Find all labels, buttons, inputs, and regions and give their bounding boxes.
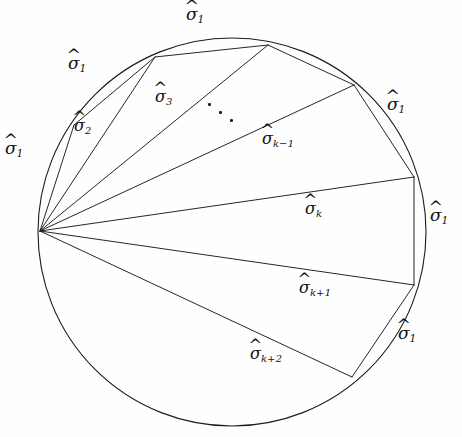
- chord-label-sigma-k+1-subscript: k+1: [310, 287, 331, 298]
- arc-label-left-base: σ^: [5, 140, 17, 157]
- chord-label-sigma-k+2: σ^k+2: [250, 346, 282, 364]
- chord-label-sigma-3: σ^3: [155, 89, 172, 107]
- arc-label-right-base: σ^: [430, 207, 442, 224]
- arc-label-upper-right: σ^1: [387, 96, 406, 115]
- chord-label-sigma-k-1-subscript: k−1: [273, 138, 294, 149]
- edge-v3-v4: [268, 45, 354, 85]
- arc-label-right: σ^1: [430, 207, 449, 226]
- ellipsis-dot-2: [219, 111, 222, 114]
- chord-label-sigma-k-base: σ^: [305, 201, 316, 217]
- arc-label-upper-right-base: σ^: [387, 96, 399, 113]
- chord-label-sigma-k-hat: ^: [304, 193, 318, 209]
- chord-label-sigma-k+1-base: σ^: [299, 280, 310, 296]
- chord-label-sigma-k+2-hat: ^: [249, 338, 263, 354]
- chord-label-sigma-k-1-hat: ^: [261, 123, 275, 139]
- figure-canvas: σ^1σ^1σ^1σ^1σ^1σ^1σ^2σ^3σ^k−1σ^kσ^k+1σ^k…: [0, 0, 462, 437]
- chord-lines-group: [40, 45, 414, 377]
- arc-label-top: σ^1: [186, 6, 205, 25]
- arc-label-upper-left-base: σ^: [68, 55, 80, 72]
- chord-label-sigma-k-1: σ^k−1: [262, 131, 294, 149]
- chord-label-sigma-k+1-hat: ^: [298, 272, 312, 288]
- circle-boundary-group: [38, 38, 426, 426]
- arc-label-top-base: σ^: [186, 6, 198, 23]
- chord-label-sigma-3-hat: ^: [154, 81, 168, 97]
- chord-label-sigma-k+2-base: σ^: [250, 346, 261, 362]
- chord-label-sigma-k-1-base: σ^: [262, 131, 273, 147]
- arc-label-right-hat: ^: [429, 199, 444, 216]
- ellipsis-dot-3: [230, 119, 233, 122]
- chord-label-sigma-2-base: σ^: [74, 118, 85, 134]
- arc-label-lower-right: σ^1: [398, 325, 417, 344]
- chord-6: [40, 231, 414, 285]
- chord-2: [40, 57, 155, 231]
- chord-label-sigma-k: σ^k: [305, 201, 322, 219]
- chord-label-sigma-2-hat: ^: [73, 110, 87, 126]
- edge-v2-v3: [155, 45, 268, 57]
- arc-label-upper-right-hat: ^: [386, 88, 401, 105]
- arc-label-lower-right-hat: ^: [397, 317, 412, 334]
- chord-label-sigma-3-base: σ^: [155, 89, 166, 105]
- arc-label-top-hat: ^: [185, 0, 200, 15]
- arc-label-left-hat: ^: [4, 132, 19, 149]
- chord-label-sigma-k+1: σ^k+1: [299, 280, 331, 298]
- arc-label-upper-left-hat: ^: [67, 47, 82, 64]
- arc-label-left: σ^1: [5, 140, 24, 159]
- chord-7: [40, 231, 352, 377]
- boundary-chord-group: [74, 45, 414, 377]
- ellipsis-dot-1: [208, 103, 211, 106]
- chord-label-sigma-k+2-subscript: k+2: [261, 353, 282, 364]
- arc-label-lower-right-base: σ^: [398, 325, 410, 342]
- circle-boundary: [38, 38, 426, 426]
- arc-label-upper-left: σ^1: [68, 55, 87, 74]
- chord-label-sigma-2: σ^2: [74, 118, 91, 136]
